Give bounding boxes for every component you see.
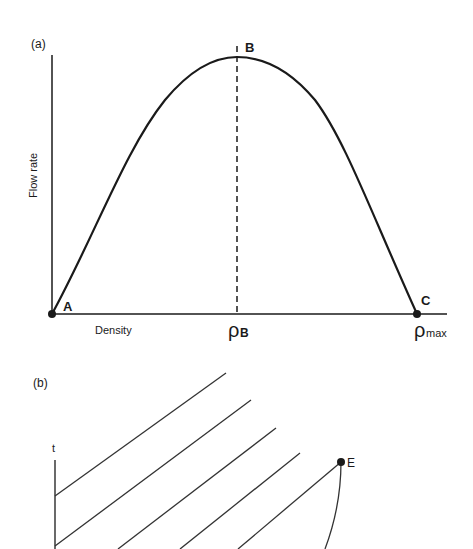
- point-c-label: C: [421, 293, 431, 308]
- svg-text:max: max: [426, 327, 447, 339]
- characteristic-lines: [55, 373, 341, 549]
- characteristic-line: [118, 428, 276, 549]
- characteristic-line: [55, 373, 226, 496]
- point-e-label: E: [347, 456, 355, 470]
- point-e-marker: [337, 458, 345, 466]
- characteristic-line: [55, 400, 251, 546]
- figure-canvas: (a) Flow rate A B C Density ρ B ρ max (b…: [0, 0, 473, 549]
- t-axis-label: t: [52, 442, 55, 454]
- point-a-marker: [48, 310, 56, 318]
- characteristic-line: [238, 462, 341, 549]
- panel-a-label: (a): [31, 37, 46, 51]
- svg-text:ρ: ρ: [228, 319, 239, 341]
- svg-text:B: B: [240, 326, 249, 340]
- point-a-label: A: [63, 299, 73, 314]
- point-c-marker: [413, 310, 421, 318]
- shock-path-curve: [325, 462, 341, 549]
- svg-text:ρ: ρ: [414, 319, 425, 341]
- flow-density-curve: [52, 57, 417, 314]
- rho-max-tick-label: ρ max: [414, 319, 447, 341]
- y-axis-label: Flow rate: [27, 153, 39, 198]
- point-b-label: B: [245, 40, 254, 55]
- characteristic-line: [180, 453, 300, 549]
- x-axis-label: Density: [95, 324, 132, 336]
- rho-b-tick-label: ρ B: [228, 319, 249, 341]
- panel-b-label: (b): [33, 376, 48, 390]
